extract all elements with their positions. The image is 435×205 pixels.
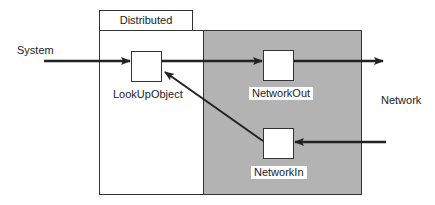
lookupobject-label: LookUpObject	[113, 88, 183, 101]
networkout-node	[263, 50, 294, 81]
distributed-tab-label: Distributed	[99, 10, 193, 30]
networkin-label: NetworkIn	[251, 166, 307, 179]
networkout-label: NetworkOut	[249, 87, 313, 100]
networkin-node	[263, 128, 294, 159]
lookupobject-node	[131, 51, 162, 82]
diagram-canvas: Distributed System Network LookUpObject …	[0, 0, 435, 205]
network-label: Network	[381, 94, 421, 107]
system-label: System	[17, 44, 54, 57]
